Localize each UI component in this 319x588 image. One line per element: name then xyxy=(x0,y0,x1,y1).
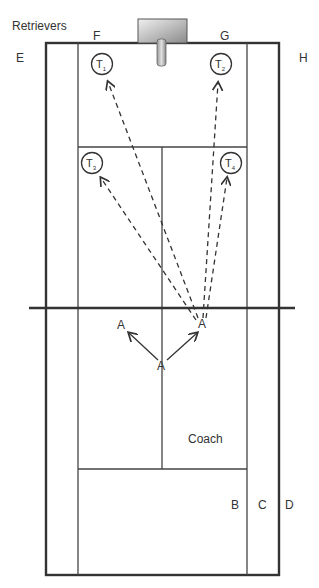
position-label-f: F xyxy=(93,30,100,42)
position-label-d: D xyxy=(285,499,294,511)
target-t2: T2 xyxy=(215,58,225,75)
target-t3: T3 xyxy=(86,157,96,174)
retrievers-label: Retrievers xyxy=(12,20,67,32)
move-arrow-left xyxy=(129,333,158,360)
tennis-court-diagram xyxy=(0,0,319,588)
target-t4: T4 xyxy=(225,157,235,174)
coach-label: Coach xyxy=(188,433,223,445)
shot-path-t4 xyxy=(206,178,227,318)
player-a-center: A xyxy=(157,360,165,372)
player-a-right: A xyxy=(198,318,206,330)
position-label-b: B xyxy=(231,499,239,511)
player-a-left: A xyxy=(117,319,125,331)
position-label-g: G xyxy=(220,30,229,42)
position-label-c: C xyxy=(258,499,267,511)
target-t1: T1 xyxy=(96,58,106,75)
position-label-h: H xyxy=(299,52,308,64)
shot-path-t1 xyxy=(108,82,198,318)
move-arrow-right xyxy=(167,333,197,360)
position-label-e: E xyxy=(16,52,24,64)
shot-path-t2 xyxy=(203,83,218,318)
shot-path-t3 xyxy=(101,178,196,320)
ball-machine-spout xyxy=(157,39,166,66)
